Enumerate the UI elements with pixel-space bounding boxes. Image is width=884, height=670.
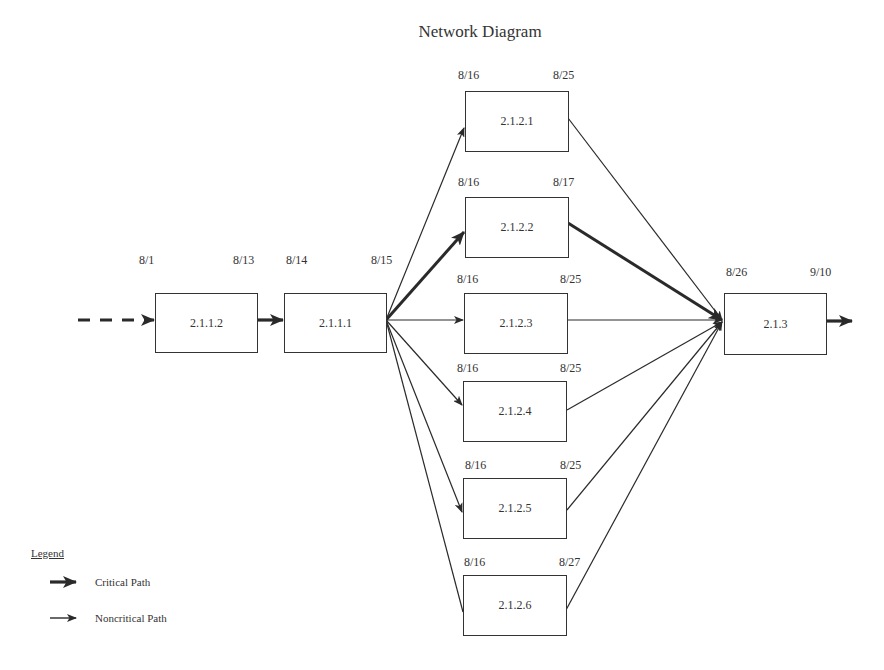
node-2.1.2.2[interactable]: 2.1.2.2 xyxy=(465,197,569,258)
node-start-date: 8/16 xyxy=(457,361,478,376)
node-finish-date: 8/25 xyxy=(560,272,581,287)
node-start-date: 8/16 xyxy=(457,272,478,287)
node-start-date: 8/26 xyxy=(726,265,747,280)
node-finish-date: 8/25 xyxy=(553,68,574,83)
node-start-date: 8/16 xyxy=(464,555,485,570)
node-finish-date: 9/10 xyxy=(810,265,831,280)
node-finish-date: 8/27 xyxy=(559,555,580,570)
edge-2.1.1.1-to-2.1.2.2 xyxy=(386,232,464,320)
node-label: 2.1.3 xyxy=(764,317,788,332)
node-label: 2.1.1.1 xyxy=(319,316,352,331)
node-label: 2.1.2.3 xyxy=(500,316,533,331)
legend-noncritical-label: Noncritical Path xyxy=(95,612,167,624)
node-2.1.2.6[interactable]: 2.1.2.6 xyxy=(463,575,567,636)
edge-2.1.2.6-to-2.1.3 xyxy=(566,322,722,610)
node-start-date: 8/16 xyxy=(458,175,479,190)
node-2.1.1.2[interactable]: 2.1.1.2 xyxy=(155,293,258,353)
node-start-date: 8/16 xyxy=(465,458,486,473)
node-2.1.2.1[interactable]: 2.1.2.1 xyxy=(465,91,569,152)
node-2.1.2.3[interactable]: 2.1.2.3 xyxy=(464,293,568,354)
edge-2.1.1.1-to-2.1.2.5 xyxy=(386,320,462,512)
edge-2.1.1.1-to-2.1.2.1 xyxy=(386,128,464,320)
node-finish-date: 8/25 xyxy=(560,361,581,376)
legend-title: Legend xyxy=(31,547,64,559)
node-label: 2.1.2.4 xyxy=(499,404,532,419)
node-label: 2.1.2.1 xyxy=(501,114,534,129)
node-2.1.1.1[interactable]: 2.1.1.1 xyxy=(284,293,387,353)
node-start-date: 8/14 xyxy=(286,253,307,268)
node-label: 2.1.2.5 xyxy=(499,501,532,516)
node-start-date: 8/16 xyxy=(458,68,479,83)
node-2.1.2.4[interactable]: 2.1.2.4 xyxy=(463,381,567,442)
node-finish-date: 8/15 xyxy=(371,253,392,268)
node-2.1.3[interactable]: 2.1.3 xyxy=(724,293,827,355)
node-2.1.2.5[interactable]: 2.1.2.5 xyxy=(463,478,567,539)
node-start-date: 8/1 xyxy=(139,253,154,268)
legend-critical-label: Critical Path xyxy=(95,576,150,588)
node-label: 2.1.2.2 xyxy=(501,220,534,235)
edge-2.1.2.1-to-2.1.3 xyxy=(568,118,722,320)
node-label: 2.1.2.6 xyxy=(499,598,532,613)
edge-2.1.2.2-to-2.1.3 xyxy=(568,223,722,320)
node-label: 2.1.1.2 xyxy=(190,316,223,331)
node-finish-date: 8/25 xyxy=(560,458,581,473)
node-finish-date: 8/17 xyxy=(553,175,574,190)
node-finish-date: 8/13 xyxy=(233,253,254,268)
edge-2.1.2.5-to-2.1.3 xyxy=(567,322,722,510)
